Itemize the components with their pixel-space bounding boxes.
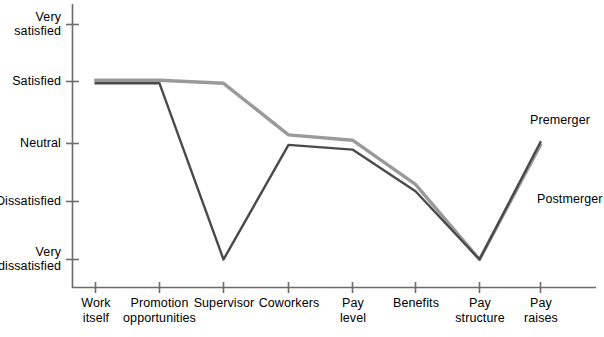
- chart-plot-area: [0, 0, 604, 337]
- y-tick-label-dissatisfied: Dissatisfied: [0, 194, 61, 208]
- x-tick-label-supervisor: Supervisor: [186, 296, 262, 311]
- y-tick-label-satisfied: Satisfied: [1, 74, 61, 88]
- satisfaction-line-chart: Very satisfied Satisfied Neutral Dissati…: [0, 0, 604, 337]
- series-line-premerger: [96, 80, 541, 259]
- series-line-postmerger: [96, 83, 541, 259]
- x-tick-label-pay-level: Pay level: [322, 296, 384, 325]
- x-tick-label-pay-raises: Pay raises: [505, 296, 577, 325]
- series-label-postmerger: Postmerger: [537, 192, 603, 206]
- y-tick-label-neutral: Neutral: [1, 136, 61, 150]
- y-tick-label-very-satisfied: Very satisfied: [1, 10, 61, 38]
- x-tick-label-coworkers: Coworkers: [252, 296, 326, 311]
- y-tick-label-very-dissatisfied: Very dissatisfied: [0, 245, 61, 273]
- series-label-premerger: Premerger: [530, 113, 590, 127]
